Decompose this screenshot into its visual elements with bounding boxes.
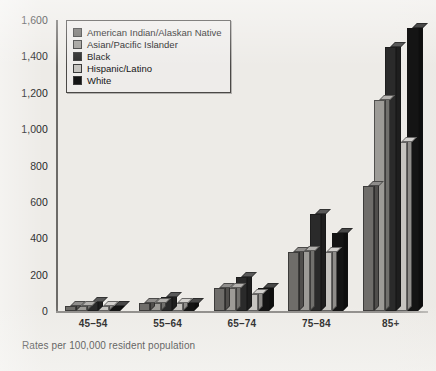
bar — [139, 303, 150, 311]
bar-front-face — [65, 306, 76, 311]
y-tick-label: 600 — [2, 196, 48, 208]
legend-item: Hispanic/Latino — [73, 63, 222, 75]
bar-group — [65, 310, 125, 311]
legend-label: White — [87, 75, 111, 86]
legend-label: Asian/Pacific Islander — [87, 39, 178, 50]
y-axis-line — [56, 20, 58, 312]
bar-side-face — [332, 247, 337, 311]
bar-side-face — [310, 246, 315, 311]
legend-item: Black — [73, 51, 222, 63]
bar-side-face — [321, 209, 326, 311]
bar-side-face — [407, 137, 412, 311]
y-tick-label: 0 — [2, 305, 48, 317]
y-tick-label: 200 — [2, 269, 48, 281]
bar-side-face — [374, 181, 379, 311]
bar-front-face — [363, 186, 374, 311]
x-category-label: 75–84 — [279, 318, 353, 329]
x-category-label: 55–64 — [130, 318, 204, 329]
legend-item: American Indian/Alaskan Native — [73, 27, 222, 39]
bar-group — [139, 310, 199, 311]
bar-front-face — [288, 252, 299, 311]
bar-front-face — [139, 303, 150, 311]
legend-label: Black — [87, 51, 110, 62]
x-category-label: 45–54 — [56, 318, 130, 329]
bar-side-face — [396, 42, 401, 311]
x-axis-line — [56, 311, 428, 313]
x-category-label: 85+ — [354, 318, 428, 329]
bar-side-face — [299, 247, 304, 311]
legend-label: American Indian/Alaskan Native — [87, 27, 222, 38]
legend-swatch — [73, 64, 82, 73]
x-category-label: 65–74 — [205, 318, 279, 329]
bar-group — [214, 310, 274, 311]
bar — [288, 252, 299, 311]
y-tick-label: 1,400 — [2, 50, 48, 62]
legend-item: White — [73, 75, 222, 87]
y-tick-label: 800 — [2, 160, 48, 172]
bar-side-face — [385, 95, 390, 311]
legend-swatch — [73, 52, 82, 61]
legend-item: Asian/Pacific Islander — [73, 39, 222, 51]
chart-caption: Rates per 100,000 resident population — [22, 340, 195, 351]
legend-label: Hispanic/Latino — [87, 63, 152, 74]
legend-swatch — [73, 76, 82, 85]
bar-group — [288, 310, 348, 311]
y-tick-label: 400 — [2, 232, 48, 244]
bar-side-face — [247, 272, 252, 311]
bar — [214, 288, 225, 311]
chart-legend: American Indian/Alaskan NativeAsian/Paci… — [66, 20, 231, 93]
y-tick-label: 1,000 — [2, 123, 48, 135]
legend-swatch — [73, 28, 82, 37]
bar — [363, 186, 374, 311]
y-tick-label: 1,200 — [2, 87, 48, 99]
chart-container: 02004006008001,0001,2001,4001,600 45–545… — [0, 0, 436, 371]
bar-front-face — [214, 288, 225, 311]
legend-swatch — [73, 40, 82, 49]
y-tick-label: 1,600 — [2, 14, 48, 26]
bar-side-face — [418, 23, 423, 311]
bar-side-face — [343, 228, 348, 311]
bar-group — [363, 310, 423, 311]
bar — [65, 306, 76, 311]
